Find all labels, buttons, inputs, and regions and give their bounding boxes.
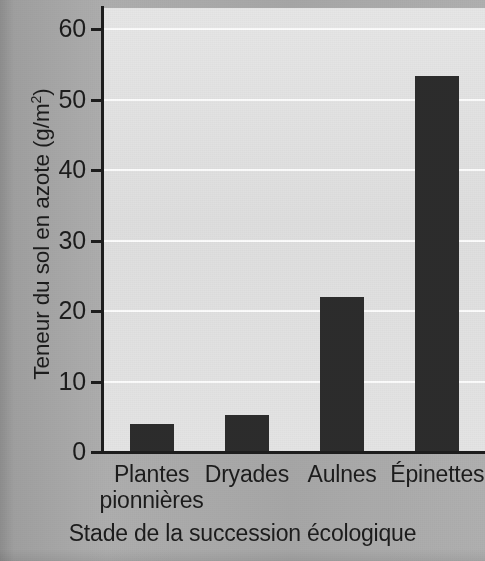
y-axis-tick-label: 20 [40, 298, 86, 323]
y-axis-tick-label: 50 [40, 87, 86, 112]
x-axis-title: Stade de la succession écologique [0, 520, 485, 546]
x-axis-category-label: Plantespionnières [98, 462, 205, 513]
bar [130, 424, 174, 452]
x-axis-line [101, 451, 485, 454]
y-axis-tick [91, 381, 102, 384]
bar [320, 297, 364, 452]
gridline [104, 28, 485, 30]
x-axis-category-label-line: pionnières [98, 488, 205, 514]
bar [415, 76, 459, 452]
x-axis-category-label: Aulnes [289, 462, 396, 488]
plot-area [104, 8, 485, 452]
y-axis-tick-label: 40 [40, 157, 86, 182]
y-axis-tick-label: 0 [40, 439, 86, 464]
y-axis-tick [91, 240, 102, 243]
y-axis-tick-label: 30 [40, 228, 86, 253]
x-axis-category-label-line: Épinettes [384, 462, 485, 488]
y-axis-tick [91, 451, 102, 454]
bar-chart-figure: 0102030405060 Teneur du sol en azote (g/… [0, 0, 485, 561]
y-axis-tick [91, 99, 102, 102]
x-axis-category-label: Épinettes [384, 462, 485, 488]
y-axis-tick-label: 60 [40, 16, 86, 41]
y-axis-tick [91, 28, 102, 31]
y-axis-line [101, 6, 104, 454]
y-axis-tick-label: 10 [40, 369, 86, 394]
x-axis-category-label-line: Dryades [193, 462, 300, 488]
x-axis-category-label-line: Plantes [98, 462, 205, 488]
x-axis-category-label-line: Aulnes [289, 462, 396, 488]
x-axis-category-label: Dryades [193, 462, 300, 488]
y-axis-tick [91, 169, 102, 172]
y-axis-tick [91, 310, 102, 313]
bar [225, 415, 269, 452]
